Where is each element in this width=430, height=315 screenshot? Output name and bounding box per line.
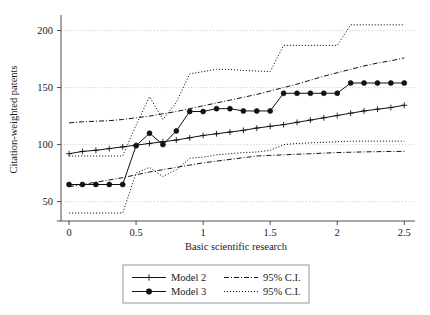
- legend-label: Model 2: [171, 272, 206, 283]
- x-tick-label: 2: [335, 227, 340, 238]
- x-tick-label: 0.5: [130, 227, 143, 238]
- data-point-marker: [67, 182, 72, 187]
- data-markers-group: [66, 81, 407, 187]
- data-point-marker: [388, 81, 393, 86]
- data-point-marker: [227, 129, 233, 135]
- data-series-group: [69, 25, 404, 213]
- legend-dot-marker: [146, 289, 152, 295]
- data-point-marker: [268, 108, 273, 113]
- data-point-marker: [240, 127, 246, 133]
- data-point-marker: [173, 137, 179, 143]
- data-point-marker: [214, 106, 219, 111]
- data-point-marker: [66, 151, 72, 157]
- data-point-marker: [402, 81, 407, 86]
- data-point-marker: [200, 133, 206, 139]
- data-point-marker: [80, 182, 85, 187]
- data-point-marker: [321, 115, 327, 121]
- x-tick-label: 2.5: [398, 227, 411, 238]
- axis-titles-group: Basic scientific researchCitation-weight…: [8, 65, 288, 252]
- data-point-marker: [348, 81, 353, 86]
- data-point-marker: [281, 122, 287, 128]
- data-point-marker: [294, 119, 300, 125]
- data-point-marker: [388, 105, 394, 111]
- data-point-marker: [120, 182, 125, 187]
- series-line-1: [69, 83, 404, 184]
- data-point-marker: [361, 108, 367, 114]
- chart-canvas: 5010015020000.511.522.5 Basic scientific…: [0, 0, 430, 315]
- data-point-marker: [80, 149, 86, 155]
- tick-labels-group: 5010015020000.511.522.5: [37, 25, 411, 238]
- data-point-marker: [134, 143, 139, 148]
- data-point-marker: [241, 108, 246, 113]
- data-point-marker: [321, 91, 326, 96]
- series-line-0: [69, 105, 404, 153]
- chart-figure: 5010015020000.511.522.5 Basic scientific…: [0, 0, 430, 315]
- data-point-marker: [93, 182, 98, 187]
- x-tick-label: 0: [66, 227, 71, 238]
- axes-group: [57, 15, 415, 225]
- y-tick-label: 200: [37, 25, 53, 36]
- data-point-marker: [308, 91, 313, 96]
- series-line-3: [69, 151, 404, 186]
- data-point-marker: [401, 102, 407, 108]
- data-point-marker: [375, 81, 380, 86]
- legend-label: Model 3: [171, 286, 206, 297]
- data-point-marker: [362, 81, 367, 86]
- data-point-marker: [160, 142, 165, 147]
- series-line-2: [69, 58, 404, 123]
- data-point-marker: [93, 147, 99, 153]
- data-point-marker: [308, 117, 314, 123]
- data-point-marker: [106, 146, 112, 152]
- y-axis-title: Citation-weighted patents: [8, 65, 19, 173]
- x-tick-label: 1.5: [264, 227, 277, 238]
- data-point-marker: [335, 91, 340, 96]
- y-tick-label: 50: [43, 196, 54, 207]
- data-point-marker: [254, 125, 260, 131]
- data-point-marker: [295, 91, 300, 96]
- data-point-marker: [187, 135, 193, 141]
- data-point-marker: [375, 106, 381, 112]
- data-point-marker: [348, 110, 354, 116]
- data-point-marker: [201, 109, 206, 114]
- legend-label: 95% C.I.: [263, 272, 301, 283]
- data-point-marker: [147, 131, 152, 136]
- data-point-marker: [254, 108, 259, 113]
- data-point-marker: [267, 123, 273, 129]
- legend: Model 295% C.I.Model 395% C.I.: [123, 265, 309, 303]
- x-axis-title: Basic scientific research: [185, 241, 288, 252]
- data-point-marker: [187, 109, 192, 114]
- x-tick-label: 1: [201, 227, 206, 238]
- data-point-marker: [107, 182, 112, 187]
- y-tick-label: 150: [37, 82, 53, 93]
- data-point-marker: [281, 91, 286, 96]
- y-tick-label: 100: [37, 139, 53, 150]
- series-line-4: [69, 25, 404, 156]
- data-point-marker: [174, 128, 179, 133]
- legend-label: 95% C.I.: [263, 286, 301, 297]
- data-point-marker: [214, 131, 220, 137]
- data-point-marker: [334, 113, 340, 119]
- gridlines-group: [61, 31, 415, 202]
- data-point-marker: [227, 106, 232, 111]
- data-point-marker: [147, 141, 153, 147]
